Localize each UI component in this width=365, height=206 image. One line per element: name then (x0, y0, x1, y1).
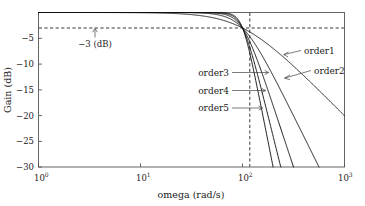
x-tick-marks (39, 13, 345, 168)
order5-annotation: order5 (198, 103, 263, 113)
y-tick-label: −20 (16, 111, 34, 121)
curve-order2 (39, 13, 320, 168)
plot-frame (39, 13, 345, 168)
y-tick-label: −30 (16, 162, 34, 172)
y-tick-label: −15 (16, 85, 34, 95)
x-tick-labels: 100 101 102 103 (34, 171, 353, 183)
x-tick-label: 102 (238, 171, 253, 183)
cutoff-gain-annotation-label: −3 (dB) (78, 39, 112, 49)
x-tick-label: 101 (136, 171, 151, 183)
bode-magnitude-chart: −5 −10 −15 −20 −25 −30 100 101 102 103 o… (0, 0, 365, 206)
curve-order5 (39, 13, 274, 168)
cutoff-gain-annotation: −3 (dB) (78, 28, 112, 48)
curve-group (39, 13, 345, 168)
y-tick-label: −10 (16, 59, 34, 69)
order2-annotation: order2 (284, 66, 344, 80)
y-tick-label: −25 (16, 136, 34, 146)
y-tick-label: −5 (21, 33, 34, 43)
y-tick-marks (39, 13, 43, 168)
order4-annotation-label: order4 (198, 86, 229, 96)
plot-canvas: −5 −10 −15 −20 −25 −30 100 101 102 103 o… (0, 0, 365, 206)
x-tick-label: 103 (338, 171, 353, 183)
order2-annotation-label: order2 (314, 66, 345, 76)
order1-annotation-label: order1 (304, 46, 335, 56)
x-axis-title: omega (rad/s) (158, 189, 225, 200)
order5-annotation-label: order5 (198, 103, 229, 113)
curve-order4 (39, 13, 281, 168)
y-tick-labels: −5 −10 −15 −20 −25 −30 (16, 33, 34, 172)
order4-annotation: order4 (198, 86, 266, 96)
order1-annotation: order1 (284, 46, 335, 57)
order3-annotation-label: order3 (198, 68, 229, 78)
x-tick-label: 100 (34, 171, 49, 183)
y-axis-title: Gain (dB) (2, 67, 13, 113)
